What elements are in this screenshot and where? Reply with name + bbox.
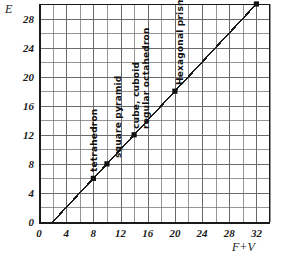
data-point-marker [104,161,109,166]
x-tick-label: 16 [142,227,153,239]
data-point-marker [91,176,96,181]
y-tick-label: 28 [14,13,34,25]
x-tick-label: 8 [91,227,97,239]
y-tick-label: 24 [14,42,34,54]
data-point-marker [254,1,259,6]
point-label: Hexagonal prism [175,0,185,85]
y-tick-label: 8 [14,158,34,170]
y-tick-label: 4 [14,187,34,199]
x-tick-label: 32 [251,227,262,239]
x-tick-label: 20 [169,227,180,239]
x-axis-title: F+V [232,240,255,255]
point-label: regular octahedron [141,27,151,129]
x-tick-label: 24 [197,227,208,239]
point-label: square pyramid [113,75,123,157]
data-line [53,4,257,222]
x-tick-label: 4 [63,227,69,239]
data-point-marker [172,89,177,94]
y-tick-label: 0 [14,216,34,228]
euler-formula-chart: 0481216202428320481216202428EF+Vtetrahed… [0,0,283,264]
x-tick-label: 0 [36,227,42,239]
y-tick-label: 16 [14,100,34,112]
x-tick-label: 12 [115,227,126,239]
y-axis-title: E [5,2,12,17]
point-label: cube, cuboid [131,62,141,129]
point-label: tetrahedron [89,109,99,172]
x-tick-label: 28 [224,227,235,239]
data-series [53,1,259,222]
data-point-marker [132,132,137,137]
y-tick-label: 20 [14,71,34,83]
y-tick-label: 12 [14,129,34,141]
